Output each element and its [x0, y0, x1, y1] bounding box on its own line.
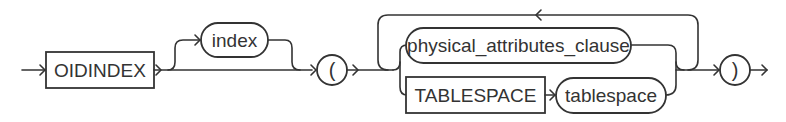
- close-paren-circle: ): [720, 55, 750, 85]
- oidindex-label: OIDINDEX: [54, 60, 146, 81]
- exit-arrow: [750, 65, 767, 75]
- tablespace-keyword-label: TABLESPACE: [415, 85, 537, 106]
- open-paren-label: (: [329, 59, 336, 81]
- optional-index-branch: index: [168, 23, 300, 70]
- entry-arrow: [22, 65, 45, 75]
- tablespace-param-label: tablespace: [565, 85, 657, 106]
- alternatives-group: physical_attributes_clause TABLESPACE ta…: [393, 28, 684, 113]
- index-label: index: [212, 30, 258, 51]
- oidindex-keyword-box: OIDINDEX: [46, 52, 154, 88]
- physical-attributes-clause-label: physical_attributes_clause: [407, 35, 630, 57]
- railroad-diagram: OIDINDEX index ( physical_attributes_cla…: [0, 0, 786, 122]
- open-paren-circle: (: [317, 55, 347, 85]
- close-paren-label: ): [732, 59, 739, 81]
